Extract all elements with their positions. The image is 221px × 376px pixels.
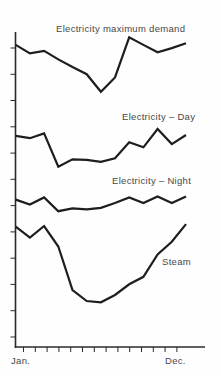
series-lines <box>16 37 186 302</box>
x-axis-label-dec: Dec. <box>165 355 186 366</box>
series-label-steam: Steam <box>162 256 191 267</box>
series-label-electricity-day: Electricity – Day <box>122 111 195 122</box>
x-axis-label-jan: Jan. <box>11 355 30 366</box>
chart-figure: Electricity maximum demand Electricity –… <box>0 0 221 376</box>
series-label-electricity-maximum-demand: Electricity maximum demand <box>56 23 185 34</box>
chart-svg <box>0 0 221 376</box>
series-label-electricity-night: Electricity – Night <box>112 175 191 186</box>
